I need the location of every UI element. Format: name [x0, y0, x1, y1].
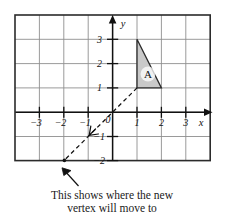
y-ticklabel-3: 3	[96, 34, 102, 45]
x-ticklabel-origin: 0	[106, 114, 111, 125]
callout-arrow-head-icon	[62, 168, 71, 176]
x-ticklabel-neg2: −2	[55, 117, 67, 128]
y-axis-label: y	[120, 18, 126, 29]
y-ticklabel-neg1: −1	[93, 131, 105, 142]
caption-line-2: vertex will move to	[67, 202, 157, 214]
x-ticklabel-neg3: −3	[30, 117, 42, 128]
coordinate-grid-figure: A x y	[0, 0, 225, 217]
figure-svg: A x y	[0, 0, 225, 217]
x-ticklabel-2: 2	[159, 117, 164, 128]
shape-label-a: A	[144, 68, 152, 80]
y-ticklabel-1: 1	[97, 82, 102, 93]
y-ticklabel-neg2: −2	[93, 155, 105, 166]
x-ticklabel-3: 3	[182, 117, 188, 128]
x-ticklabel-neg1: −1	[79, 117, 91, 128]
ray-endpoint-marker	[63, 159, 67, 163]
caption-line-1: This shows where the new	[51, 189, 174, 201]
x-ticklabel-1: 1	[135, 117, 140, 128]
x-axis-label: x	[198, 117, 204, 128]
y-ticklabel-2: 2	[97, 58, 102, 69]
